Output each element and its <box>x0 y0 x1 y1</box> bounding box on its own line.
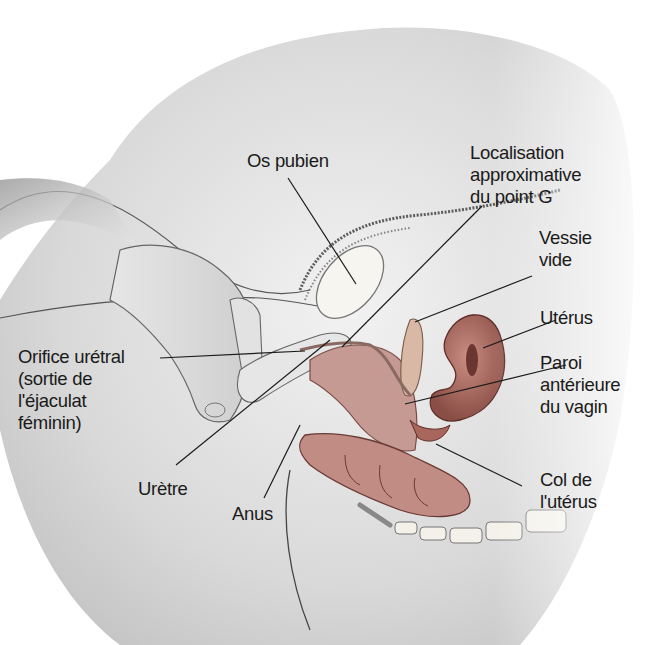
label-anus: Anus <box>232 503 273 525</box>
diagram-stage: Os pubien Localisation approximative du … <box>0 0 656 645</box>
label-col: Col de l'utérus <box>540 469 597 513</box>
label-uretre: Urètre <box>138 478 188 500</box>
label-os-pubien: Os pubien <box>247 150 329 172</box>
label-uterus: Utérus <box>540 307 593 329</box>
label-paroi: Paroi antérieure du vagin <box>540 352 620 418</box>
label-point-g: Localisation approximative du point G <box>470 142 581 208</box>
label-orifice: Orifice urétral (sortie de l'éjaculat fé… <box>18 346 125 434</box>
label-vessie: Vessie vide <box>539 227 592 271</box>
